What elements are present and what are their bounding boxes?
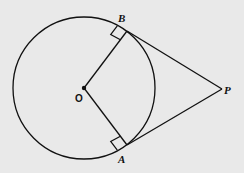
center-point — [82, 86, 86, 90]
label-o: O — [75, 93, 83, 104]
label-b: B — [117, 12, 125, 24]
background — [0, 0, 244, 173]
label-a: A — [117, 153, 125, 165]
tangent-diagram: O B A P — [0, 0, 244, 173]
label-p: P — [224, 84, 231, 96]
